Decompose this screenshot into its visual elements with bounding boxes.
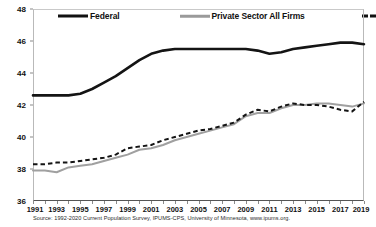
chart-container: Federal Private Sector All Firms Private… [0, 0, 376, 227]
series-lines [0, 0, 376, 227]
source-note: Source: 1992-2020 Current Population Sur… [33, 215, 290, 221]
series-line-federal [33, 43, 364, 96]
series-line-private-sector-all-firms [33, 103, 364, 172]
